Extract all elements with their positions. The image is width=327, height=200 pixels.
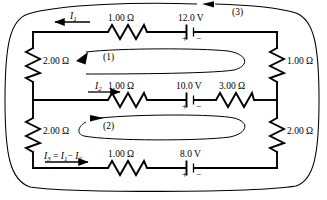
label-resistor-right-upper: 1.00 Ω <box>287 57 313 67</box>
battery-bottom-plus: + <box>182 170 187 179</box>
battery-top-minus: − <box>196 34 201 43</box>
battery-bottom-minus: − <box>196 170 201 179</box>
label-battery-bottom: 8.0 V <box>180 150 201 160</box>
resistor-right-lower-2ohm <box>270 118 284 152</box>
battery-top-plus: + <box>182 34 187 43</box>
label-resistor-middle: 1.00 Ω <box>108 82 134 92</box>
resistor-middle-3ohm <box>216 93 256 107</box>
resistor-middle-1ohm <box>108 93 150 107</box>
resistor-left-lower-2ohm <box>26 118 40 152</box>
label-resistor-left-upper: 2.00 Ω <box>43 57 69 67</box>
loop-label-2: (2) <box>103 122 114 132</box>
battery-middle-minus: − <box>196 102 201 111</box>
loop-1-path <box>76 49 245 74</box>
label-resistor-left-lower: 2.00 Ω <box>43 127 69 137</box>
circuit-schematic-svg <box>0 0 327 200</box>
label-battery-top: 12.0 V <box>178 14 204 24</box>
current-label-i2: I2 <box>95 82 102 93</box>
label-resistor-right-lower: 2.00 Ω <box>287 127 313 137</box>
loop-label-3: (3) <box>232 8 243 18</box>
resistor-left-upper-2ohm <box>26 48 40 82</box>
circuit-diagram: I1 1.00 Ω 12.0 V + − (3) 2.00 Ω 1.00 Ω (… <box>0 0 327 200</box>
current-label-i1: I1 <box>70 12 77 23</box>
current-label-i3: I3 = I1− I2 <box>44 152 82 163</box>
label-resistor-bottom: 1.00 Ω <box>108 150 134 160</box>
resistor-right-upper-1ohm <box>270 48 284 82</box>
resistor-bottom-1ohm <box>108 161 150 175</box>
label-battery-middle: 10.0 V <box>176 82 202 92</box>
battery-middle-plus: + <box>182 102 187 111</box>
label-resistor-top: 1.00 Ω <box>108 14 134 24</box>
resistor-top-1ohm <box>108 25 150 39</box>
loop-label-1: (1) <box>103 53 114 63</box>
label-resistor-middle-right: 3.00 Ω <box>219 82 245 92</box>
